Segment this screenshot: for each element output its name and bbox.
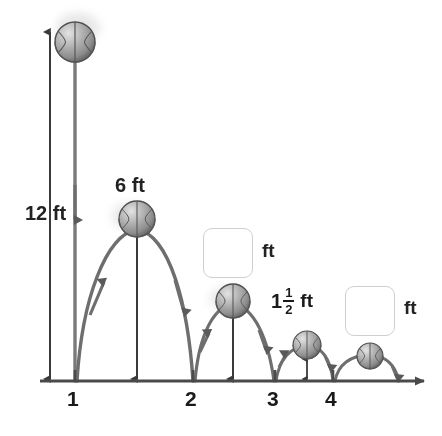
- basketball-bounce-4: [357, 343, 383, 369]
- fraction-numerator: 1: [283, 286, 294, 299]
- bounce3-height-label: 1 1 2 ft: [271, 286, 313, 316]
- fraction-denominator: 2: [283, 303, 294, 316]
- figure-canvas: 12 ft 6 ft ft 1 1 2 ft ft 1 2 3 4: [0, 0, 442, 436]
- answer-box-2-unit-label: ft: [404, 298, 417, 317]
- measure-arrows: [50, 32, 307, 379]
- mixed-whole-part: 1: [271, 291, 282, 311]
- axis-tick-label-2: 2: [185, 387, 197, 411]
- mixed-unit-label: ft: [300, 290, 313, 312]
- basketball-bounce-3: [293, 331, 321, 359]
- basketball-drop: [55, 22, 95, 62]
- bounce-arc-1-down-arrow: [175, 280, 184, 312]
- drop-height-label: 12 ft: [25, 203, 66, 223]
- axis-tick-label-3: 3: [267, 387, 279, 411]
- basketball-bounce-1: [119, 201, 155, 237]
- answer-box-1[interactable]: [203, 228, 253, 278]
- answer-box-1-unit-label: ft: [262, 241, 275, 260]
- mixed-fraction: 1 2: [283, 286, 294, 316]
- axis-tick-label-4: 4: [325, 387, 337, 411]
- bounce-arc-3-up-arrow: [279, 354, 286, 367]
- bounce1-height-label: 6 ft: [115, 175, 145, 195]
- basketball-bounce-2: [216, 284, 250, 318]
- answer-box-2[interactable]: [345, 286, 395, 336]
- bounce-diagram-svg: [0, 0, 442, 436]
- axis-tick-label-1: 1: [67, 387, 79, 411]
